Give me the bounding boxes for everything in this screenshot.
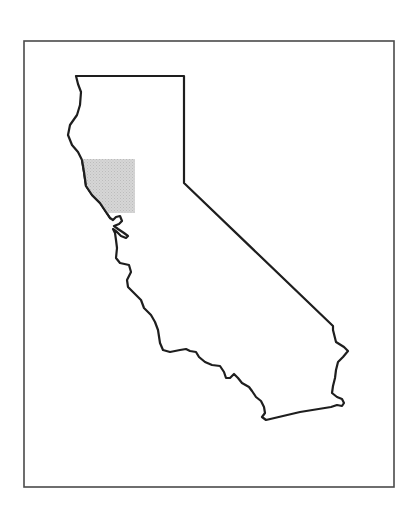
highlighted-region	[80, 159, 135, 213]
map-canvas	[0, 0, 417, 515]
california-outline	[68, 76, 348, 420]
